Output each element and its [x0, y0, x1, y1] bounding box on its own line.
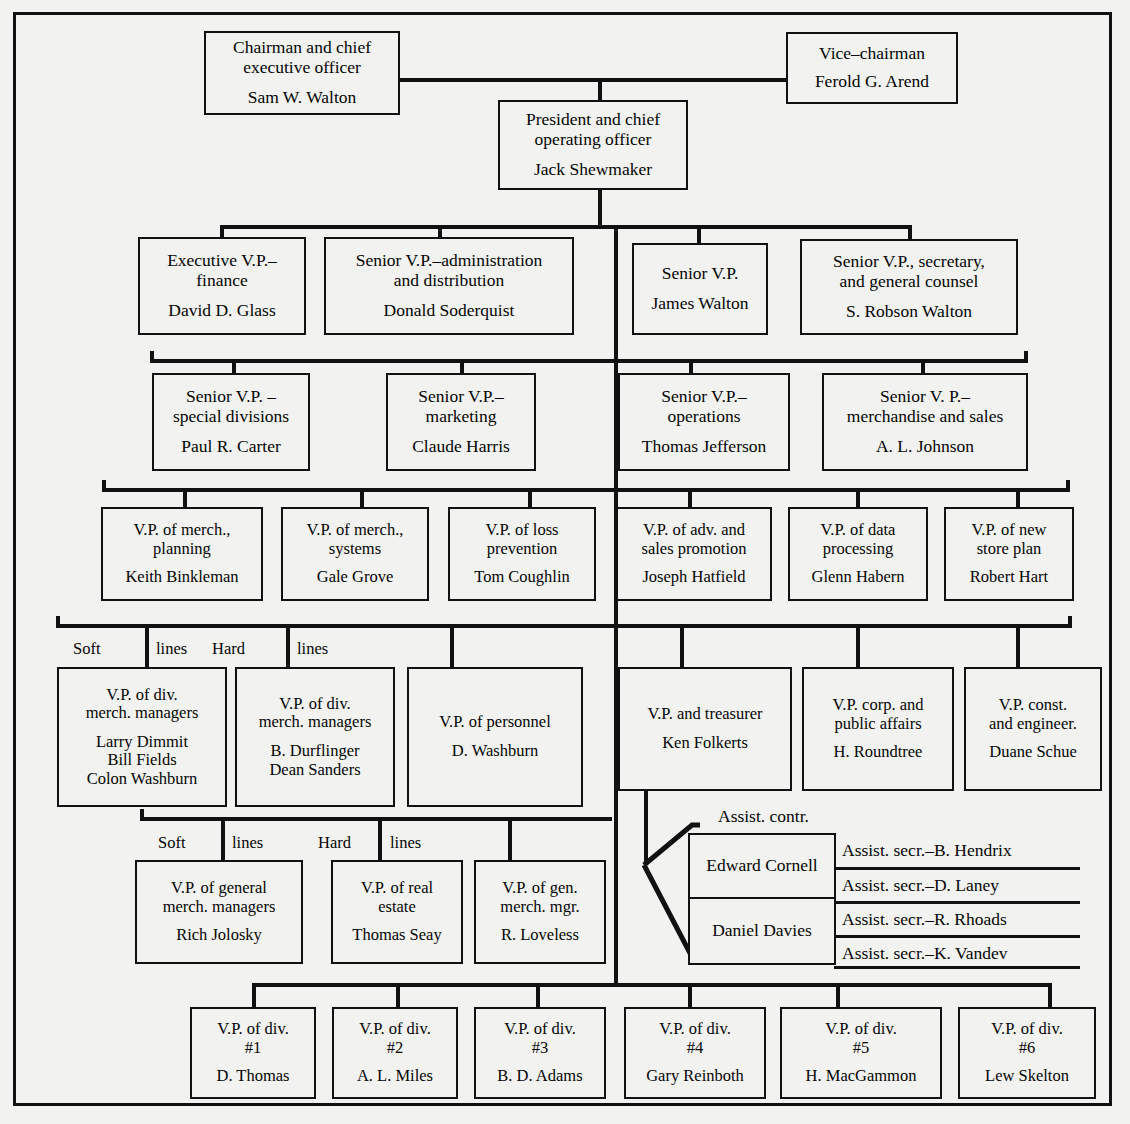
bus-tier5 — [56, 624, 1072, 628]
bus-tier4-left-cap — [102, 480, 106, 492]
node-vice-chairman-title: Vice–chairman — [819, 44, 925, 64]
label-hard-lines-2-word: Hard — [318, 833, 351, 853]
node-vp-personnel-title: V.P. of personnel — [439, 713, 551, 731]
node-svp-secretary-title: Senior V.P., secretary, and general coun… — [833, 252, 985, 291]
node-vp-const-title: V.P. const. and engineer. — [989, 696, 1077, 733]
node-vp-gen-mgr-person: R. Loveless — [501, 926, 579, 944]
bus-tier5-right-cap — [1068, 616, 1072, 628]
node-vp-gen-soft[interactable]: V.P. of general merch. managers Rich Jol… — [135, 860, 303, 964]
node-div2[interactable]: V.P. of div. #2 A. L. Miles — [332, 1007, 458, 1099]
node-vp-data-person: Glenn Habern — [811, 568, 904, 586]
node-vp-corp-title: V.P. corp. and public affairs — [833, 696, 924, 733]
node-vp-loss-title: V.P. of loss prevention — [485, 521, 558, 558]
node-svp-admin-title: Senior V.P.–administration and distribut… — [356, 251, 543, 290]
assist-secretary-row-3[interactable]: Assist. secr.–R. Rhoads — [834, 901, 1080, 935]
node-chairman-title: Chairman and chief executive officer — [233, 38, 371, 77]
drop-vp-treasurer — [680, 624, 684, 669]
node-div4-person: Gary Reinboth — [646, 1067, 744, 1085]
node-svp-marketing[interactable]: Senior V.P.– marketing Claude Harris — [386, 373, 536, 471]
node-vp-treasurer-title: V.P. and treasurer — [647, 705, 762, 723]
node-controller-second[interactable]: Daniel Davies — [688, 899, 836, 965]
node-vp-adv[interactable]: V.P. of adv. and sales promotion Joseph … — [616, 507, 772, 601]
node-svp-special-title: Senior V.P. – special divisions — [173, 387, 289, 426]
node-vp-data[interactable]: V.P. of data processing Glenn Habern — [788, 507, 928, 601]
bus-tier3 — [150, 359, 1028, 363]
node-vp-realestate[interactable]: V.P. of real estate Thomas Seay — [331, 860, 463, 964]
label-hard-lines-1-lines: lines — [297, 639, 328, 659]
node-vp-div-soft-person: Larry Dimmit Bill Fields Colon Washburn — [87, 733, 198, 788]
node-president[interactable]: President and chief operating officer Ja… — [498, 100, 688, 190]
node-div4-title: V.P. of div. #4 — [659, 1020, 731, 1057]
bus-tier4 — [102, 488, 1070, 492]
bus-tier5-left-cap — [56, 616, 60, 628]
node-chairman-person: Sam W. Walton — [248, 88, 357, 108]
node-div3-person: B. D. Adams — [497, 1067, 582, 1085]
node-div3[interactable]: V.P. of div. #3 B. D. Adams — [474, 1007, 606, 1099]
node-svp-merch[interactable]: Senior V. P.– merchandise and sales A. L… — [822, 373, 1028, 471]
node-svp-secretary[interactable]: Senior V.P., secretary, and general coun… — [800, 239, 1018, 335]
node-vp-personnel[interactable]: V.P. of personnel D. Washburn — [407, 667, 583, 807]
label-hard-lines-1-word: Hard — [212, 639, 245, 659]
assist-secretary-row-2[interactable]: Assist. secr.–D. Laney — [834, 867, 1080, 901]
node-div4[interactable]: V.P. of div. #4 Gary Reinboth — [624, 1007, 766, 1099]
node-svp-merch-person: A. L. Johnson — [876, 437, 974, 457]
node-vp-div-soft[interactable]: V.P. of div. merch. managers Larry Dimmi… — [57, 667, 227, 807]
drop-vp-personnel — [450, 624, 454, 669]
bus-tier3-right-cap — [1024, 351, 1028, 363]
node-president-title: President and chief operating officer — [526, 110, 660, 149]
drop-vp-gen-soft — [221, 817, 225, 863]
node-vice-chairman[interactable]: Vice–chairman Ferold G. Arend — [786, 32, 958, 104]
node-svp-special[interactable]: Senior V.P. – special divisions Paul R. … — [152, 373, 310, 471]
assist-secretary-bottom-rule — [834, 966, 1080, 969]
assist-secretary-row-1[interactable]: Assist. secr.–B. Hendrix — [834, 833, 1080, 867]
node-svp-marketing-title: Senior V.P.– marketing — [418, 387, 503, 426]
node-chairman[interactable]: Chairman and chief executive officer Sam… — [204, 31, 400, 115]
assist-secretary-row-4[interactable]: Assist. secr.–K. Vandev — [834, 935, 1080, 969]
node-svp-plain-person: James Walton — [652, 294, 749, 314]
node-div6[interactable]: V.P. of div. #6 Lew Skelton — [958, 1007, 1096, 1099]
node-vp-personnel-person: D. Washburn — [452, 742, 538, 760]
node-svp-operations[interactable]: Senior V.P.– operations Thomas Jefferson — [618, 373, 790, 471]
label-soft-lines-2-lines: lines — [232, 833, 263, 853]
drop-vp-div-soft — [145, 624, 149, 669]
node-vp-gen-soft-title: V.P. of general merch. managers — [163, 879, 276, 916]
bus-tier6 — [140, 817, 612, 821]
node-vp-merch-sys[interactable]: V.P. of merch., systems Gale Grove — [281, 507, 429, 601]
node-vp-const-person: Duane Schue — [989, 743, 1077, 761]
drop-div2 — [396, 983, 400, 1009]
node-vp-gen-soft-person: Rich Jolosky — [176, 926, 262, 944]
assist-secretary-label-4: Assist. secr.–K. Vandev — [842, 943, 1007, 964]
node-controller-second-person: Daniel Davies — [712, 921, 812, 941]
bus-tier3-left-cap — [150, 351, 154, 363]
node-svp-admin[interactable]: Senior V.P.–administration and distribut… — [324, 237, 574, 335]
node-svp-admin-person: Donald Soderquist — [384, 301, 515, 321]
drop-vp-corp — [856, 624, 860, 669]
label-soft-lines-2-word: Soft — [158, 833, 186, 853]
node-div1[interactable]: V.P. of div. #1 D. Thomas — [190, 1007, 316, 1099]
node-vp-corp[interactable]: V.P. corp. and public affairs H. Roundtr… — [802, 667, 954, 791]
node-vp-realestate-person: Thomas Seay — [352, 926, 441, 944]
node-evp-finance[interactable]: Executive V.P.– finance David D. Glass — [138, 237, 306, 335]
chart-outer-border: Chairman and chief executive officer Sam… — [13, 12, 1112, 1106]
node-vp-merch-plan[interactable]: V.P. of merch., planning Keith Binkleman — [101, 507, 263, 601]
node-vp-newstore[interactable]: V.P. of new store plan Robert Hart — [944, 507, 1074, 601]
node-vp-div-hard[interactable]: V.P. of div. merch. managers B. Durfling… — [235, 667, 395, 807]
node-vp-adv-title: V.P. of adv. and sales promotion — [642, 521, 747, 558]
node-vp-div-hard-person: B. Durflinger Dean Sanders — [269, 742, 360, 779]
node-controller-first-person: Edward Cornell — [706, 856, 817, 876]
node-vp-div-hard-title: V.P. of div. merch. managers — [259, 695, 372, 732]
node-vp-loss[interactable]: V.P. of loss prevention Tom Coughlin — [448, 507, 596, 601]
node-vp-div-soft-title: V.P. of div. merch. managers — [86, 686, 199, 723]
assist-secretary-label-3: Assist. secr.–R. Rhoads — [842, 909, 1007, 930]
drop-div5 — [836, 983, 840, 1009]
node-svp-plain[interactable]: Senior V.P. James Walton — [632, 243, 768, 335]
node-svp-special-person: Paul R. Carter — [181, 437, 281, 457]
assist-secretary-label-1: Assist. secr.–B. Hendrix — [842, 840, 1012, 861]
node-vp-gen-mgr[interactable]: V.P. of gen. merch. mgr. R. Loveless — [474, 860, 606, 964]
node-vp-const[interactable]: V.P. const. and engineer. Duane Schue — [964, 667, 1102, 791]
node-controller-first[interactable]: Edward Cornell — [688, 833, 836, 899]
assist-secretary-label-2: Assist. secr.–D. Laney — [842, 875, 999, 896]
node-vp-adv-person: Joseph Hatfield — [642, 568, 745, 586]
node-div5[interactable]: V.P. of div. #5 H. MacGammon — [780, 1007, 942, 1099]
node-vp-treasurer[interactable]: V.P. and treasurer Ken Folkerts — [618, 667, 792, 791]
